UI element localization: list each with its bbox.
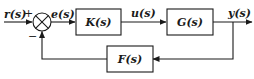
error-label: e(s) (51, 8, 75, 21)
feedback-label: F(s) (117, 53, 142, 66)
feedback-return-arrow (42, 32, 107, 60)
plant-block: G(s) (167, 9, 213, 35)
plus-sign: + (24, 7, 33, 20)
plant-label: G(s) (177, 16, 203, 29)
input-signal: r(s) + (4, 7, 33, 22)
block-diagram: r(s) + − e(s) K(s) u(s) G(s) y(s) F(s) (0, 0, 254, 79)
controller-block: K(s) (76, 9, 121, 35)
output-label: y(s) (227, 7, 251, 20)
controller-label: K(s) (84, 16, 111, 29)
minus-sign: − (28, 30, 37, 43)
control-label: u(s) (131, 7, 156, 20)
